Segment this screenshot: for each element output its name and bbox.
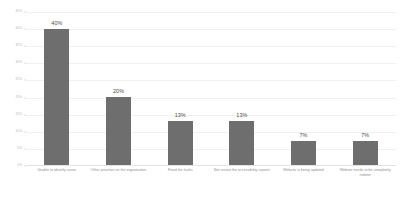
bar-value-label: 7% [361, 133, 369, 138]
x-axis-category-label: Fixed the faults [150, 168, 210, 173]
y-tick-label: 45% [16, 10, 23, 13]
bar-slot: 13% [149, 12, 211, 165]
bar-slot: 7% [273, 12, 335, 165]
x-axis-category-label: Other priorities on the organisation [89, 168, 149, 173]
y-tick-label: 20% [16, 96, 23, 99]
bar[interactable] [353, 141, 378, 165]
bar[interactable] [106, 97, 131, 165]
bar[interactable] [44, 29, 69, 165]
x-label-slot: Website needs to be completely redone [334, 168, 396, 179]
bar-value-label: 13% [236, 113, 247, 118]
bar[interactable] [291, 141, 316, 165]
bar-slot: 40% [26, 12, 88, 165]
y-axis: 0%5%10%15%20%25%30%35%40%45% [0, 12, 26, 166]
y-tick-label: 35% [16, 45, 23, 48]
x-axis-category-label: Not review the accessibility reports [212, 168, 272, 173]
y-tick-label: 0% [17, 164, 22, 167]
y-tick-label: 25% [16, 79, 23, 82]
bar-slot: 7% [334, 12, 396, 165]
x-label-slot: Not review the accessibility reports [211, 168, 273, 173]
bar-slot: 20% [88, 12, 150, 165]
y-tick-label: 15% [16, 113, 23, 116]
x-label-slot: Website is being updated [273, 168, 335, 173]
x-label-slot: Unable to identify cause [26, 168, 88, 173]
x-label-slot: Fixed the faults [149, 168, 211, 173]
x-axis-category-label: Website is being updated [274, 168, 334, 173]
bar-value-label: 13% [175, 113, 186, 118]
plot-area: 40%20%13%13%7%7% [26, 12, 396, 166]
axis-baseline [26, 165, 396, 166]
y-tick-label: 30% [16, 62, 23, 65]
bar[interactable] [229, 121, 254, 165]
bar-value-label: 40% [51, 21, 62, 26]
bar[interactable] [168, 121, 193, 165]
y-tick-label: 5% [17, 147, 22, 150]
x-label-slot: Other priorities on the organisation [88, 168, 150, 173]
bar-value-label: 7% [300, 133, 308, 138]
bar-chart: 0%5%10%15%20%25%30%35%40%45% 40%20%13%13… [0, 0, 402, 199]
x-axis-labels: Unable to identify causeOther priorities… [26, 168, 396, 179]
x-axis-category-label: Unable to identify cause [27, 168, 87, 173]
bar-series: 40%20%13%13%7%7% [26, 12, 396, 165]
x-axis-category-label: Website needs to be completely redone [335, 168, 395, 179]
y-tick-label: 40% [16, 28, 23, 31]
y-tick-label: 10% [16, 130, 23, 133]
bar-slot: 13% [211, 12, 273, 165]
bar-value-label: 20% [113, 89, 124, 94]
